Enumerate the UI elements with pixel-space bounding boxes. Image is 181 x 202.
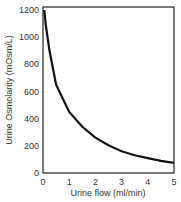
- y-tick-label: 200: [24, 141, 39, 151]
- x-tick-label: 2: [93, 177, 98, 187]
- y-tick-label: 1200: [19, 5, 39, 15]
- y-tick-label: 800: [24, 59, 39, 69]
- y-axis-ticks: 020040060080010001200: [19, 5, 39, 178]
- x-tick-label: 0: [40, 177, 45, 187]
- plot-frame: [43, 7, 174, 173]
- y-tick-label: 600: [24, 87, 39, 97]
- x-tick-label: 1: [67, 177, 72, 187]
- x-axis-ticks: 012345: [40, 177, 176, 187]
- x-axis-label: Urine flow (ml/min): [70, 188, 145, 198]
- x-tick-label: 4: [145, 177, 150, 187]
- y-axis-label: Urine Osmolarity (mOsm/L): [4, 35, 14, 145]
- x-tick-label: 5: [171, 177, 176, 187]
- y-tick-label: 1000: [19, 32, 39, 42]
- y-tick-label: 400: [24, 114, 39, 124]
- y-tick-label: 0: [34, 168, 39, 178]
- data-line: [44, 10, 174, 163]
- chart: 020040060080010001200 012345 Urine flow …: [0, 0, 181, 202]
- x-tick-label: 3: [119, 177, 124, 187]
